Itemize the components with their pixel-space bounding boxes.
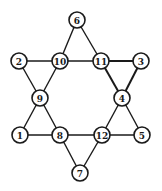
node-7: 7 — [72, 165, 88, 181]
node-10: 10 — [52, 53, 68, 69]
node-1: 1 — [12, 127, 28, 143]
node-4: 4 — [114, 90, 130, 106]
node-label: 6 — [74, 16, 80, 26]
node-label: 5 — [139, 131, 145, 141]
node-label: 3 — [138, 57, 144, 67]
node-6: 6 — [69, 12, 85, 28]
node-5: 5 — [134, 127, 150, 143]
node-11: 11 — [93, 53, 109, 69]
node-2: 2 — [11, 53, 27, 69]
node-label: 8 — [57, 131, 63, 141]
node-label: 1 — [17, 131, 23, 141]
nodes-layer: 621011394181257 — [11, 12, 150, 181]
node-label: 7 — [77, 169, 83, 179]
node-label: 9 — [37, 94, 43, 104]
node-label: 10 — [54, 57, 67, 67]
node-label: 12 — [96, 131, 109, 141]
node-label: 11 — [95, 57, 108, 67]
node-9: 9 — [32, 90, 48, 106]
node-label: 4 — [119, 94, 125, 104]
hexagram-graph: 621011394181257 — [0, 0, 162, 191]
node-label: 2 — [16, 57, 22, 67]
node-12: 12 — [94, 127, 110, 143]
node-8: 8 — [52, 127, 68, 143]
node-3: 3 — [133, 53, 149, 69]
